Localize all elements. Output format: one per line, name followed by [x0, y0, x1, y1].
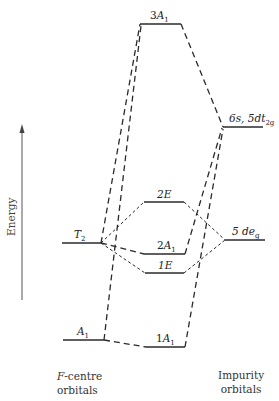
connector-1E-5deg — [184, 240, 225, 273]
energy-level-diagram — [0, 0, 279, 401]
connector-T2-2A1 — [101, 243, 144, 254]
connector-T2-3A1 — [101, 24, 140, 243]
energy-axis-arrowhead — [20, 124, 25, 133]
label-3A1: 3A1 — [150, 10, 169, 24]
label-6s-5dt2g: 6s, 5dt2g — [229, 113, 274, 127]
energy-axis-label: Energy — [5, 198, 17, 236]
label-1A1: 1A1 — [156, 333, 175, 347]
label-2E: 2E — [157, 189, 171, 200]
label-T2: T2 — [74, 229, 85, 243]
caption-impurity-orbitals: Impurity orbitals — [218, 368, 264, 396]
label-1E: 1E — [158, 260, 172, 271]
connector-T2-1E — [101, 243, 145, 273]
connector-A1-1A1 — [104, 340, 146, 347]
connector-2A1-6s — [185, 128, 222, 254]
label-2A1: 2A1 — [157, 240, 176, 254]
connector-1A1-6s — [185, 129, 223, 347]
label-5deg: 5 deg — [232, 226, 259, 240]
label-A1: A1 — [77, 326, 89, 340]
connector-A1-3A1 — [104, 26, 141, 340]
caption-f-centre-orbitals: F-centre orbitals — [57, 369, 102, 397]
connector-3A1-6s — [181, 24, 223, 127]
